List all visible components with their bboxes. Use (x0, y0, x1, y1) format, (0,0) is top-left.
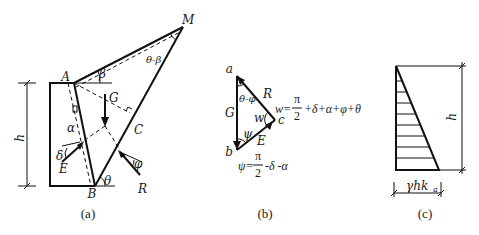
base-label-subscript: a (433, 185, 438, 194)
force-R-label-b: R (262, 87, 272, 101)
eq-w-rhs: +δ+α+φ+θ (304, 102, 361, 116)
point-a-label: a (226, 62, 233, 76)
eq-psi-pi: π (255, 149, 261, 163)
panel-c: h γhk a (c) (391, 62, 466, 221)
caption-a: (a) (81, 206, 95, 221)
pressure-triangle (396, 66, 439, 170)
beta-label: β (98, 67, 106, 81)
force-E-label: E (58, 162, 68, 176)
point-M-label: M (181, 13, 195, 27)
eq-w-pi: π (294, 92, 300, 106)
h-label-a: h (13, 134, 27, 142)
theta-minus-phi-label: θ-φ (239, 93, 255, 104)
wall-back-AB (74, 83, 95, 186)
arrowhead-G (101, 117, 109, 127)
dashed-AC (74, 83, 130, 113)
eq-w-two: 2 (294, 109, 300, 123)
panel-b: a b c G R E θ-φ ψ w w= π 2 +δ+α+φ+θ ψ= π… (225, 62, 361, 221)
eq-psi-lhs: ψ= (238, 159, 254, 173)
point-B-label: B (87, 187, 97, 201)
base-label: γhk (406, 179, 428, 193)
eq-w-lhs: w= (275, 102, 291, 116)
force-G-label-b: G (225, 106, 235, 120)
dashed-to-R (105, 126, 120, 150)
h-label-c: h (445, 113, 459, 121)
right-angle-C (126, 107, 132, 111)
force-E-label-b: E (256, 134, 266, 148)
point-b-label: b (225, 145, 233, 159)
panel-a: h A B C M G E R α β δ φ θ θ-β (a) (13, 13, 195, 221)
caption-b: (b) (257, 206, 272, 221)
w-label: w (254, 111, 265, 125)
dashed-to-E (82, 126, 105, 142)
eq-psi-two: 2 (255, 166, 261, 180)
theta-minus-beta-label: θ-β (146, 54, 161, 65)
point-A-label: A (60, 70, 70, 84)
psi-label: ψ (243, 127, 253, 141)
theta-label: θ (104, 174, 112, 188)
earth-pressure-diagram: h A B C M G E R α β δ φ θ θ-β (a) a b c … (0, 0, 479, 235)
force-R-label: R (137, 182, 147, 196)
eq-psi-rhs: -δ -α (265, 159, 289, 173)
phi-label: φ (134, 157, 143, 171)
alpha-label: α (67, 121, 75, 135)
point-C-label: C (134, 123, 143, 137)
force-G-label: G (109, 91, 119, 105)
delta-label: δ (56, 149, 63, 163)
caption-c: (c) (418, 206, 432, 221)
